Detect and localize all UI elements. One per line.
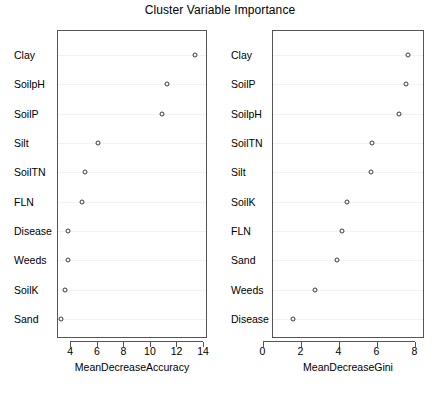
gridline — [273, 172, 423, 173]
gridline — [58, 319, 206, 320]
gridline — [273, 231, 423, 232]
data-point — [340, 229, 345, 234]
data-point — [80, 199, 85, 204]
x-axis-tick-label: 2 — [298, 345, 304, 357]
gridline — [273, 55, 423, 56]
y-axis-label: FLN — [231, 225, 251, 237]
y-axis-label: Sand — [14, 313, 39, 325]
data-point — [334, 258, 339, 263]
gridline — [58, 114, 206, 115]
x-axis-tick-label: 12 — [171, 345, 183, 357]
plot-box — [272, 30, 424, 338]
data-point — [165, 82, 170, 87]
y-axis-label: SoilK — [231, 196, 256, 208]
x-axis-tick-label: 6 — [94, 345, 100, 357]
gridline — [273, 290, 423, 291]
gridline — [273, 143, 423, 144]
gridline — [58, 143, 206, 144]
y-axis-label: Disease — [14, 225, 52, 237]
data-point — [369, 141, 374, 146]
y-axis-label: Weeds — [231, 284, 264, 296]
x-axis-tick-label: 6 — [374, 345, 380, 357]
gridline — [58, 172, 206, 173]
x-axis-tick-label: 0 — [260, 345, 266, 357]
y-axis-label: Clay — [231, 49, 252, 61]
y-axis-label: Silt — [14, 137, 29, 149]
y-axis-label: FLN — [14, 196, 34, 208]
x-axis-tick-label: 10 — [144, 345, 156, 357]
data-point — [405, 53, 410, 58]
y-axis-label: Disease — [231, 313, 269, 325]
plot-box — [57, 30, 207, 338]
data-point — [345, 199, 350, 204]
x-axis-tick-label: 14 — [197, 345, 209, 357]
gridline — [58, 260, 206, 261]
y-axis-label: Weeds — [14, 254, 47, 266]
y-axis-label: SoilpH — [231, 108, 262, 120]
gridline — [58, 55, 206, 56]
data-point — [82, 170, 87, 175]
data-point — [368, 170, 373, 175]
data-point — [58, 317, 63, 322]
y-axis-label: SoilTN — [231, 137, 263, 149]
data-point — [96, 141, 101, 146]
y-axis-label: Clay — [14, 49, 35, 61]
chart-title: Cluster Variable Importance — [0, 3, 440, 17]
data-point — [159, 111, 164, 116]
x-axis-line — [70, 341, 203, 342]
data-point — [193, 53, 198, 58]
y-axis-label: SoilP — [14, 108, 39, 120]
x-axis-tick-label: 4 — [336, 345, 342, 357]
gridline — [58, 290, 206, 291]
data-point — [403, 82, 408, 87]
y-axis-label: Sand — [231, 254, 256, 266]
x-axis-title: MeanDecreaseGini — [303, 361, 393, 373]
data-point — [291, 317, 296, 322]
data-point — [66, 229, 71, 234]
data-point — [65, 258, 70, 263]
y-axis-label: SoilP — [231, 78, 256, 90]
gridline — [58, 231, 206, 232]
gridline — [58, 84, 206, 85]
y-axis-label: SoilTN — [14, 166, 46, 178]
y-axis-label: Silt — [231, 166, 246, 178]
x-axis-tick-label: 4 — [67, 345, 73, 357]
x-axis-tick-label: 8 — [120, 345, 126, 357]
y-axis-label: SoilK — [14, 284, 39, 296]
data-point — [312, 287, 317, 292]
x-axis-tick-label: 8 — [412, 345, 418, 357]
x-axis-title: MeanDecreaseAccuracy — [75, 361, 189, 373]
y-axis-label: SoilpH — [14, 78, 45, 90]
chart-canvas: Cluster Variable Importance ClaySoilpHSo… — [0, 0, 440, 397]
gridline — [273, 84, 423, 85]
data-point — [62, 287, 67, 292]
data-point — [397, 111, 402, 116]
gridline — [273, 260, 423, 261]
